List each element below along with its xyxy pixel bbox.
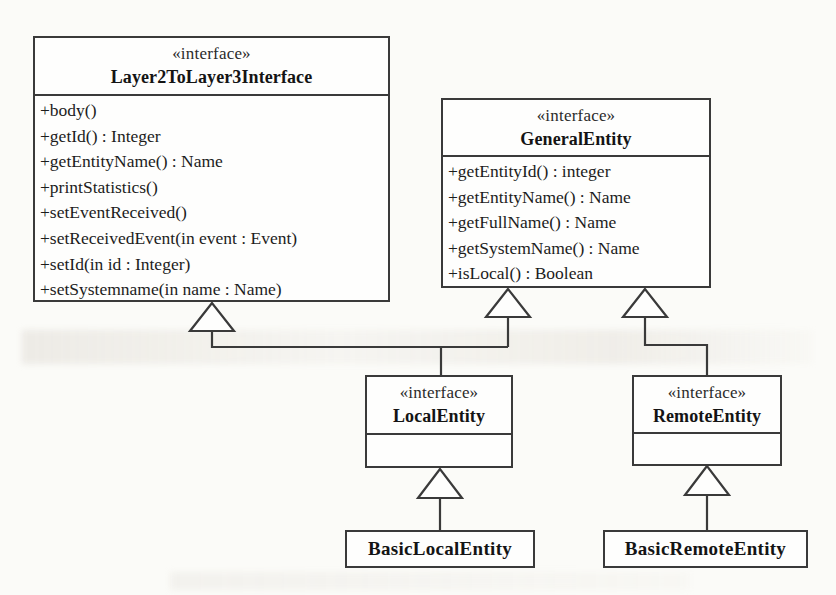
class-remoteentity[interactable]: «interface» RemoteEntity xyxy=(632,375,782,466)
edge-remoteentity-to-generalentity xyxy=(645,317,707,375)
class-name-label: BasicRemoteEntity xyxy=(625,537,786,561)
operation-item: +printStatistics() xyxy=(40,175,388,201)
operation-item: +getSystemName() : Name xyxy=(448,236,709,262)
class-localentity[interactable]: «interface» LocalEntity xyxy=(365,375,513,468)
class-header-generalentity: «interface» GeneralEntity xyxy=(443,100,709,157)
operation-item: +getFullName() : Name xyxy=(448,210,709,236)
class-header-remoteentity: «interface» RemoteEntity xyxy=(634,377,780,434)
class-basicremoteentity[interactable]: BasicRemoteEntity xyxy=(603,530,808,568)
generalization-arrowhead-localentity xyxy=(418,469,462,498)
generalization-arrowhead-generalentity-left xyxy=(486,289,530,317)
operation-item: +setId(in id : Integer) xyxy=(40,252,388,278)
operation-item: +getEntityName() : Name xyxy=(40,149,388,175)
operation-item: +getEntityName() : Name xyxy=(448,185,709,211)
class-name-label: Layer2ToLayer3Interface xyxy=(35,65,388,89)
class-header-localentity: «interface» LocalEntity xyxy=(367,377,511,435)
generalization-arrowhead-generalentity-right xyxy=(623,289,667,317)
class-operations-localentity xyxy=(367,435,511,466)
stereotype-label: «interface» xyxy=(35,42,388,65)
operation-item: +setEventReceived() xyxy=(40,200,388,226)
class-name-label: BasicLocalEntity xyxy=(368,537,512,561)
stereotype-label: «interface» xyxy=(634,381,780,404)
class-name-label: GeneralEntity xyxy=(443,127,709,151)
class-name-label: LocalEntity xyxy=(367,404,511,428)
operation-item: +getEntityId() : integer xyxy=(448,159,709,185)
edge-localentity-to-layer2 xyxy=(212,330,508,347)
class-header-layer2tolayer3interface: «interface» Layer2ToLayer3Interface xyxy=(35,38,388,96)
operation-item: +getId() : Integer xyxy=(40,124,388,150)
stereotype-label: «interface» xyxy=(367,381,511,404)
operation-item: +body() xyxy=(40,98,388,124)
scan-artifact-lower xyxy=(170,572,690,590)
uml-class-diagram: «interface» Layer2ToLayer3Interface +bod… xyxy=(0,0,836,595)
class-operations-layer2tolayer3interface: +body() +getId() : Integer +getEntityNam… xyxy=(35,96,388,303)
class-operations-generalentity: +getEntityId() : integer +getEntityName(… xyxy=(443,157,709,287)
class-generalentity[interactable]: «interface» GeneralEntity +getEntityId()… xyxy=(441,98,711,288)
generalization-arrowhead-remoteentity xyxy=(685,466,729,495)
class-operations-remoteentity xyxy=(634,434,780,464)
operation-item: +isLocal() : Boolean xyxy=(448,261,709,287)
operation-item: +setSystemname(in name : Name) xyxy=(40,277,388,303)
generalization-arrowhead-layer2 xyxy=(190,303,234,331)
stereotype-label: «interface» xyxy=(443,104,709,127)
class-name-label: RemoteEntity xyxy=(634,404,780,428)
class-basiclocalentity[interactable]: BasicLocalEntity xyxy=(345,530,535,568)
scan-artifact xyxy=(22,330,812,364)
class-layer2tolayer3interface[interactable]: «interface» Layer2ToLayer3Interface +bod… xyxy=(33,36,390,302)
operation-item: +setReceivedEvent(in event : Event) xyxy=(40,226,388,252)
